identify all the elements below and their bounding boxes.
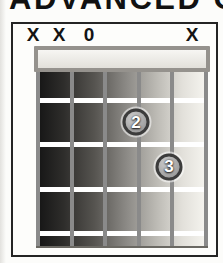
chord-box: XX0X 23 — [11, 22, 218, 257]
string-marker: 0 — [84, 25, 95, 44]
fret-line — [36, 231, 208, 236]
fret-line — [36, 187, 208, 192]
fretboard: 23 — [36, 72, 208, 248]
fret-line — [36, 142, 208, 147]
string-line — [137, 72, 141, 246]
finger-dot: 3 — [156, 153, 183, 180]
page-heading: ADVANCED C — [9, 0, 223, 10]
finger-label: 3 — [164, 157, 173, 177]
string-marker-row: XX0X — [13, 24, 216, 46]
string-line — [103, 72, 107, 246]
string-line — [204, 72, 208, 246]
finger-label: 2 — [131, 112, 140, 132]
string-line — [70, 72, 74, 246]
nut — [34, 46, 210, 72]
string-line — [36, 72, 40, 246]
page-heading-text: ADVANCED C — [9, 0, 223, 10]
scanned-page: ADVANCED C XX0X 23 — [0, 0, 223, 263]
string-marker: X — [186, 25, 199, 44]
string-marker: X — [27, 25, 40, 44]
string-marker: X — [53, 25, 66, 44]
finger-dot: 2 — [123, 109, 150, 136]
fret-line — [36, 98, 208, 103]
